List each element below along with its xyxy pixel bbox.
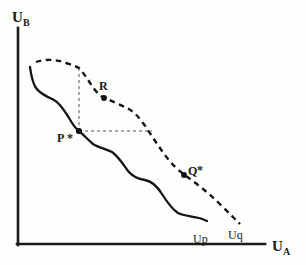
point-p-marker [76,128,82,134]
utility-frontier-figure: U B U A Up Uq P * R [0,0,306,265]
x-axis-label-main: U [272,238,283,254]
y-axis-label-sub: B [23,17,30,28]
point-q-marker [181,172,187,178]
curve-up-label: Up [193,232,208,246]
y-axis-label-main: U [12,9,23,25]
point-q-label: Q [188,164,197,178]
point-p-label: P [57,131,64,145]
point-p-group: P * [57,128,82,145]
figure-canvas: U B U A Up Uq P * R [0,0,306,265]
x-axis-label: U A [272,238,291,257]
point-r-label: R [99,79,108,93]
point-r-group: R [99,79,108,101]
point-r-marker [101,95,107,101]
point-q-star: * [197,163,203,177]
y-axis-label: U B [12,9,30,28]
curve-uq-label: Uq [228,228,243,242]
point-q-group: Q * [181,163,203,178]
guide-lines-group [79,68,152,131]
point-p-star: * [67,131,73,145]
x-axis-label-sub: A [283,246,291,257]
